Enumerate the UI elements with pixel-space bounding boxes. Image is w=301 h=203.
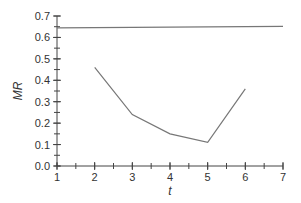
y-tick-label: 0.0	[35, 160, 50, 172]
y-tick-label: 0.5	[35, 53, 50, 65]
x-axis: 1234567	[54, 162, 286, 183]
y-tick-label: 0.3	[35, 96, 50, 108]
x-tick-label: 1	[54, 171, 60, 183]
x-tick-label: 5	[205, 171, 211, 183]
y-tick-label: 0.4	[35, 74, 50, 86]
y-axis-title: MR	[11, 81, 25, 100]
x-tick-label: 2	[92, 171, 98, 183]
x-tick-label: 3	[129, 171, 135, 183]
y-tick-label: 0.2	[35, 117, 50, 129]
y-axis: 0.00.10.20.30.40.50.60.7	[35, 10, 61, 172]
reference-line	[57, 26, 283, 28]
mr-line-chart: 0.00.10.20.30.40.50.60.7 1234567 t MR	[0, 0, 301, 203]
y-tick-label: 0.6	[35, 31, 50, 43]
x-axis-title: t	[168, 184, 172, 198]
x-tick-label: 6	[242, 171, 248, 183]
series-group	[57, 26, 283, 142]
mr-series-line	[95, 67, 246, 142]
y-tick-label: 0.7	[35, 10, 50, 22]
y-tick-label: 0.1	[35, 139, 50, 151]
x-tick-label: 7	[280, 171, 286, 183]
x-tick-label: 4	[167, 171, 173, 183]
